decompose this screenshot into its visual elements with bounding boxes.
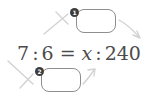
arrow-up-right-icon-bottom (83, 69, 95, 84)
step-badge-1: 1 (70, 8, 79, 17)
right-consequent: 240 (105, 44, 141, 63)
left-antecedent: 7 (17, 44, 29, 63)
right-antecedent-unknown: x (82, 44, 93, 63)
answer-input-bottom[interactable] (42, 69, 80, 91)
answer-box-top[interactable] (76, 9, 116, 33)
left-ratio-separator: : (32, 44, 38, 63)
left-consequent: 6 (42, 44, 54, 63)
proportion-equation: 7 : 6 = x : 240 (0, 39, 158, 67)
arrow-down-right-icon-top (119, 20, 140, 38)
proportion-exercise-canvas: 7 : 6 = x : 240 1 2 (0, 0, 158, 104)
step-badge-2: 2 (35, 67, 44, 76)
answer-input-top[interactable] (77, 10, 115, 32)
right-ratio-separator: : (95, 44, 101, 63)
cross-multiply-x-icon-top (44, 12, 68, 34)
answer-box-bottom[interactable] (41, 68, 81, 92)
equals-sign: = (60, 44, 76, 63)
